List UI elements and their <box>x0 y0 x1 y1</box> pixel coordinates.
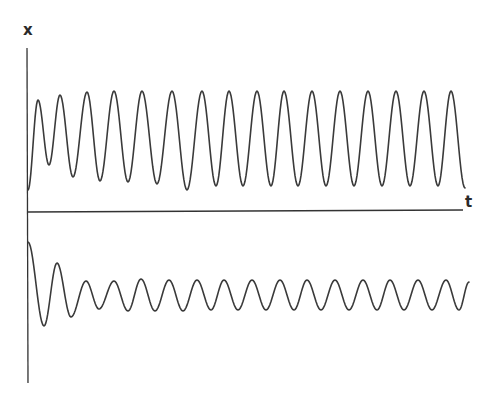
y-axis-label: x <box>23 23 33 38</box>
upper-trace <box>28 91 465 190</box>
t-axis <box>27 210 463 212</box>
y-axis <box>27 48 28 383</box>
lower-trace <box>28 242 469 326</box>
oscillation-chart <box>0 0 499 396</box>
t-axis-label: t <box>465 195 472 210</box>
